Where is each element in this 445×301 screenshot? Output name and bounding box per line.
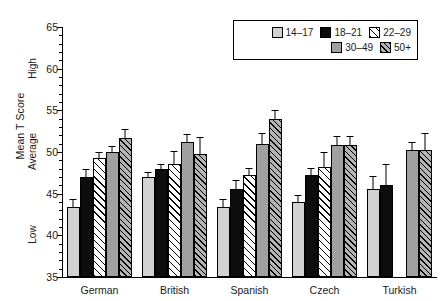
bar-slot — [380, 27, 392, 277]
bar-slot — [217, 27, 229, 277]
error-bar — [311, 169, 312, 176]
bar — [344, 145, 356, 277]
error-bar-cap — [334, 136, 341, 137]
error-bar-cap — [145, 172, 152, 173]
error-bar-cap — [220, 199, 227, 200]
error-bar-cap — [383, 164, 390, 165]
legend-item: 50+ — [380, 42, 411, 53]
error-bar — [412, 143, 413, 151]
error-bar — [386, 165, 387, 185]
error-bar — [99, 153, 100, 158]
legend-item: 18–21 — [320, 27, 362, 38]
bar-slot — [305, 27, 317, 277]
bar — [168, 164, 180, 277]
error-bar-cap — [321, 152, 328, 153]
error-bar — [223, 200, 224, 208]
bar — [318, 167, 330, 277]
error-bar-cap — [409, 142, 416, 143]
error-bar — [262, 134, 263, 144]
error-bar-cap — [272, 110, 279, 111]
error-bar — [187, 135, 188, 143]
legend-label: 14–17 — [286, 28, 314, 38]
bar-slot — [243, 27, 255, 277]
legend-swatch-icon — [331, 42, 342, 53]
error-bar-cap — [370, 176, 377, 177]
error-bar-cap — [308, 168, 315, 169]
bar — [106, 152, 118, 277]
bar-slot — [168, 27, 180, 277]
bar-slot — [194, 27, 206, 277]
bar — [367, 189, 379, 277]
error-bar-cap — [233, 180, 240, 181]
bar-slot — [256, 27, 268, 277]
legend-row-bottom: 30–4950+ — [240, 40, 411, 55]
bar — [305, 175, 317, 277]
bar — [230, 189, 242, 277]
bar — [181, 142, 193, 277]
error-bar-cap — [109, 146, 116, 147]
plot-area — [62, 27, 437, 277]
y-tick-label: 65 — [32, 22, 58, 33]
legend-label: 30–49 — [345, 43, 373, 53]
y-tick-major — [57, 277, 62, 278]
error-bar — [161, 165, 162, 169]
error-bar — [125, 130, 126, 138]
bar-slot — [292, 27, 304, 277]
x-category-label: Czech — [287, 284, 362, 296]
error-bar — [324, 153, 325, 167]
bar — [67, 207, 79, 277]
bar-group — [212, 27, 287, 277]
error-bar-cap — [295, 195, 302, 196]
legend-swatch-icon — [272, 27, 283, 38]
error-bar-cap — [96, 152, 103, 153]
y-tick-label: 50 — [32, 147, 58, 158]
error-bar-cap — [347, 136, 354, 137]
x-category-label: Turkish — [362, 284, 437, 296]
bar-chart: Mean T Score HighAverageLow 354045505560… — [0, 0, 445, 301]
bar-group — [362, 27, 437, 277]
bar-slot — [93, 27, 105, 277]
bar — [142, 177, 154, 277]
chart-legend: 14–1718–2122–29 30–4950+ — [233, 20, 418, 60]
legend-row-top: 14–1718–2122–29 — [240, 25, 411, 40]
bar-slot — [318, 27, 330, 277]
bar — [119, 138, 131, 277]
error-bar-cap — [184, 134, 191, 135]
bar — [269, 119, 281, 277]
bar — [243, 175, 255, 277]
legend-label: 22–29 — [383, 28, 411, 38]
y-tick-label: 45 — [32, 188, 58, 199]
error-bar — [275, 111, 276, 119]
error-bar — [200, 138, 201, 154]
bar — [256, 144, 268, 277]
bar-group — [62, 27, 137, 277]
error-bar — [249, 169, 250, 176]
bar — [380, 185, 392, 277]
bar-slot — [406, 27, 418, 277]
bar-group — [137, 27, 212, 277]
error-bar-cap — [83, 169, 90, 170]
error-bar — [148, 173, 149, 177]
bar — [331, 145, 343, 277]
bar-slot — [269, 27, 281, 277]
bar — [292, 202, 304, 277]
bar-slot — [344, 27, 356, 277]
legend-label: 18–21 — [334, 28, 362, 38]
bar-slot — [155, 27, 167, 277]
error-bar — [86, 170, 87, 178]
bar-slot — [181, 27, 193, 277]
bar — [406, 150, 418, 277]
bar-slot — [67, 27, 79, 277]
error-bar-cap — [422, 133, 429, 134]
legend-label: 50+ — [394, 43, 411, 53]
error-bar — [298, 196, 299, 202]
bar — [93, 158, 105, 277]
legend-swatch-icon — [320, 27, 331, 38]
y-axis-title: Mean T Score — [14, 66, 26, 186]
y-tick-label: 35 — [32, 272, 58, 283]
x-category-label: Spanish — [212, 284, 287, 296]
error-bar — [174, 152, 175, 164]
legend-item: 22–29 — [369, 27, 411, 38]
bar-slot — [80, 27, 92, 277]
bar-slot — [106, 27, 118, 277]
